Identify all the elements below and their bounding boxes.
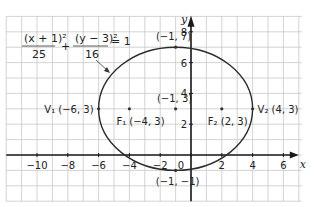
- point-label-F2: F₂ (2, 3): [208, 116, 248, 127]
- y-axis-label: y: [180, 13, 188, 26]
- points: V₁ (−6, 3)F₁ (−4, 3)(−1, 3)F₂ (2, 3)V₂ (…: [44, 31, 298, 187]
- y-tick-label: 6: [181, 58, 187, 69]
- point-label-V2: V₂ (4, 3): [258, 104, 299, 115]
- point-V1: [97, 107, 100, 110]
- x-tick-label: −10: [26, 160, 47, 171]
- point-label-F1: F₁ (−4, 3): [116, 116, 164, 127]
- point-F1: [128, 107, 131, 110]
- x-axis-arrow-icon: [290, 152, 299, 159]
- x-tick-label: 6: [280, 160, 286, 171]
- equation-denominator-1: 25: [32, 48, 46, 61]
- point-top: [174, 46, 177, 49]
- point-V2: [251, 107, 254, 110]
- point-bottom: [174, 169, 177, 172]
- ellipse-equation: (x + 1)² 25 + (y − 3)² 16 = 1: [22, 32, 131, 73]
- point-F2: [220, 107, 223, 110]
- point-label-top: (−1, 7): [156, 31, 191, 42]
- x-tick-label: 0: [178, 160, 184, 171]
- ellipse-graph: x y −10−8−6−4−202462468 V₁ (−6, 3)F₁ (−4…: [0, 0, 319, 207]
- x-tick-label: 2: [219, 160, 225, 171]
- x-axis-label: x: [300, 158, 307, 171]
- equation-denominator-2: 16: [85, 48, 99, 61]
- point-center: [174, 107, 177, 110]
- point-label-center: (−1, 3): [157, 93, 192, 104]
- y-axis-arrow-icon: [188, 15, 195, 26]
- equation-rhs: = 1: [111, 35, 131, 48]
- x-tick-label: 4: [249, 160, 255, 171]
- x-tick-label: −6: [91, 160, 106, 171]
- point-label-bottom: (−1, −1): [156, 176, 200, 187]
- y-tick-label: 2: [181, 119, 187, 130]
- equation-plus: +: [61, 40, 70, 53]
- point-label-V1: V₁ (−6, 3): [44, 104, 93, 115]
- x-tick-label: −8: [60, 160, 75, 171]
